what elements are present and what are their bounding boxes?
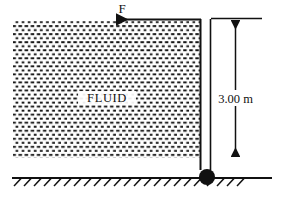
ground-surface [12, 178, 272, 186]
fluid-label-group: FLUID [78, 91, 136, 105]
fluid-label: FLUID [87, 91, 127, 105]
gate-height-dimension: 3.00 m [211, 19, 262, 157]
fluid-gate-diagram: FLUID F 3.00 m [0, 0, 281, 209]
fluid-hatch-fill [13, 21, 200, 158]
fluid-body [13, 21, 200, 158]
hinge-pivot [199, 169, 215, 185]
diagram-canvas: FLUID F 3.00 m [0, 0, 281, 209]
force-label: F [118, 1, 125, 16]
depth-label: 3.00 m [218, 92, 253, 106]
gate-plate [201, 19, 211, 170]
